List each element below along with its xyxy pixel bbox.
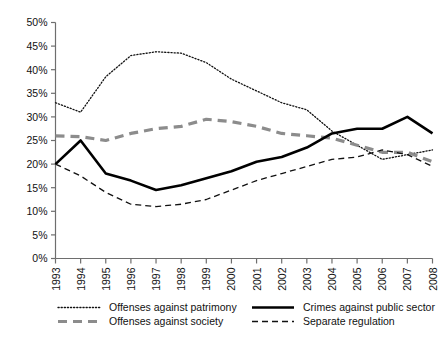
y-axis-tick-label: 15% [26, 182, 47, 194]
x-axis-tick-label: 1997 [150, 267, 162, 291]
legend-label: Crimes against public sector [303, 301, 435, 313]
x-axis-tick-label: 1998 [175, 267, 187, 291]
x-axis-tick-label: 1996 [125, 267, 137, 291]
line-chart: 1993199419951996199719981999200020012002… [0, 0, 447, 345]
x-axis-tick-label: 2004 [326, 267, 338, 291]
y-axis-tick-label: 35% [26, 87, 47, 99]
chart-series-layer [56, 52, 433, 207]
series-line-4 [56, 150, 433, 207]
x-axis-tick-label: 2007 [401, 267, 413, 291]
x-axis-tick-labels: 1993199419951996199719981999200020012002… [50, 267, 439, 291]
y-axis-tick-label: 25% [26, 134, 47, 146]
x-axis-tick-label: 2000 [225, 267, 237, 291]
series-line-3 [56, 117, 433, 190]
x-axis-tick-label: 2005 [351, 267, 363, 291]
y-axis-tick-label: 10% [26, 205, 47, 217]
legend-item-2[interactable]: Offenses against society [58, 315, 224, 327]
series-line-1 [56, 52, 433, 160]
x-axis-tick-label: 1999 [200, 267, 212, 291]
legend-item-4[interactable]: Separate regulation [252, 315, 395, 327]
chart-container: 1993199419951996199719981999200020012002… [0, 0, 447, 345]
x-axis-tick-label: 2003 [301, 267, 313, 291]
chart-legend: Offenses against patrimonyOffenses again… [58, 301, 435, 327]
y-axis-tick-label: 0% [32, 252, 47, 264]
legend-item-3[interactable]: Crimes against public sector [252, 301, 435, 313]
y-axis-tick-label: 40% [26, 64, 47, 76]
x-axis-tick-label: 1995 [100, 267, 112, 291]
legend-label: Offenses against society [109, 315, 224, 327]
legend-label: Offenses against patrimony [109, 301, 237, 313]
legend-item-1[interactable]: Offenses against patrimony [58, 301, 237, 313]
x-axis-tick-label: 1994 [75, 267, 87, 291]
y-axis-tick-label: 5% [32, 229, 47, 241]
y-axis-tick-labels: 0%5%10%15%20%25%30%35%40%45%50% [26, 16, 47, 264]
y-axis-tick-label: 45% [26, 40, 47, 52]
x-axis-tick-label: 1993 [50, 267, 62, 291]
y-axis-tick-label: 50% [26, 16, 47, 28]
x-axis-tick-label: 2008 [427, 267, 439, 291]
y-axis-tick-label: 30% [26, 111, 47, 123]
legend-label: Separate regulation [303, 315, 395, 327]
x-axis-tick-label: 2002 [276, 267, 288, 291]
x-axis-tick-label: 2001 [251, 267, 263, 291]
y-axis-tick-label: 20% [26, 158, 47, 170]
chart-axes [51, 23, 433, 264]
x-axis-tick-label: 2006 [376, 267, 388, 291]
